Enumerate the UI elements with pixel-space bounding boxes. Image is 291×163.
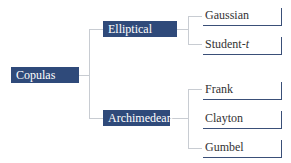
leaf-label: Clayton: [205, 111, 243, 125]
leaf-bar: [281, 8, 283, 25]
leaf-gumbel: Gumbel: [203, 140, 282, 158]
connector: [177, 29, 188, 30]
branch-node-archimedean: Archimedean: [103, 110, 170, 126]
leaf-bar: [281, 82, 283, 99]
branch-node-elliptical: Elliptical: [103, 21, 177, 37]
connector: [89, 118, 103, 119]
leaf-frank: Frank: [203, 82, 282, 100]
connector: [89, 29, 90, 119]
connector: [89, 29, 103, 30]
connector: [79, 75, 89, 76]
connector: [188, 16, 202, 17]
connector: [188, 44, 202, 45]
connector: [188, 148, 202, 149]
leaf-label: Gumbel: [205, 140, 244, 154]
leaf-bar: [281, 140, 283, 157]
leaf-label: Gaussian: [205, 8, 249, 22]
leaf-gaussian: Gaussian: [203, 8, 282, 26]
connector: [188, 89, 189, 148]
connector: [170, 118, 188, 119]
leaf-student-t: Student-t: [203, 37, 282, 55]
leaf-clayton: Clayton: [203, 111, 282, 129]
leaf-label: Student-: [205, 37, 246, 51]
leaf-label: Frank: [205, 82, 233, 96]
leaf-bar: [281, 111, 283, 128]
leaf-label-italic: t: [246, 37, 249, 51]
connector: [188, 16, 189, 44]
connector: [188, 89, 202, 90]
root-node-copulas: Copulas: [11, 67, 79, 83]
leaf-bar: [281, 37, 283, 54]
